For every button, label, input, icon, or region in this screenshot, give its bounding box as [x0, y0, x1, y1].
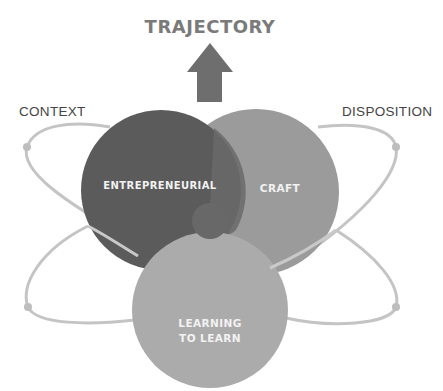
- entrepreneurial-label: ENTREPRENEURIAL: [100, 178, 220, 193]
- learning-label-line1: LEARNING: [170, 316, 250, 331]
- orbit-dot-left-bottom: [24, 303, 32, 311]
- diagram-title: TRAJECTORY: [0, 16, 420, 37]
- disposition-label: DISPOSITION: [342, 104, 432, 119]
- learning-to-learn-label: LEARNING TO LEARN: [170, 316, 250, 346]
- context-label: CONTEXT: [19, 104, 86, 119]
- orbit-dot-left-top: [23, 143, 31, 151]
- learning-label-line2: TO LEARN: [170, 331, 250, 346]
- orbit-dot-right-bottom: [392, 303, 400, 311]
- trajectory-diagram: TRAJECTORY CONTEXT DISPOSITION ENTREPREN…: [0, 0, 443, 391]
- up-arrow-icon: [187, 43, 233, 102]
- circle-learning: [132, 232, 288, 388]
- orbit-dot-right-top: [392, 143, 400, 151]
- craft-label: CRAFT: [250, 181, 310, 196]
